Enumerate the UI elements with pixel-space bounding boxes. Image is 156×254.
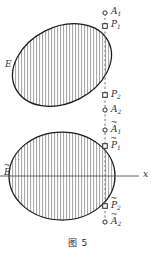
marker-P1 (103, 24, 108, 29)
diagram-canvas (0, 0, 156, 254)
label-lower-set: ~E (4, 168, 11, 177)
marker-A1 (103, 11, 107, 15)
label-A2-tilde: ~A2 (111, 217, 121, 226)
marker-A2 (103, 108, 107, 112)
label-P2: P2 (111, 90, 121, 99)
accent-tilde-A1: ~ (111, 119, 118, 127)
marker-A1-tilde (103, 128, 107, 132)
marker-P1-tilde (103, 144, 108, 149)
marker-P2-tilde (103, 204, 108, 209)
marker-P2 (103, 93, 108, 98)
label-P2-tilde: ~P2 (111, 201, 121, 210)
figure-5-diagram: A1 P1 P2 A2 ~A1 ~P1 ~P2 ~A2 E ~E x 图 5 (0, 0, 156, 254)
accent-tilde-P1: ~ (111, 135, 118, 143)
accent-tilde-lower-set: ~ (4, 162, 11, 170)
axis-label-x: x (143, 170, 148, 179)
label-A1-tilde: ~A1 (111, 125, 121, 134)
figure-caption: 图 5 (0, 236, 156, 249)
label-upper-set: E (5, 60, 12, 69)
accent-tilde-P2: ~ (111, 195, 118, 203)
label-A2: A2 (111, 105, 121, 114)
label-P1: P1 (111, 20, 121, 29)
marker-A2-tilde (103, 220, 107, 224)
accent-tilde-A2: ~ (111, 211, 118, 219)
label-A1: A1 (111, 7, 121, 16)
label-P1-tilde: ~P1 (111, 141, 121, 150)
